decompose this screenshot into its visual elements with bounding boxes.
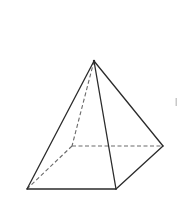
apex-vertex [93, 60, 95, 62]
square-pyramid-figure [0, 0, 177, 208]
edge-apex-front-right [94, 61, 116, 189]
edge-back-left-front-left [27, 146, 72, 189]
hidden-edges [27, 61, 163, 189]
edge-front-right-back-right [116, 146, 163, 189]
edge-apex-back-left [72, 61, 94, 146]
edge-apex-back-right [94, 61, 163, 146]
diagram-canvas [0, 0, 177, 208]
edge-apex-front-left [27, 61, 94, 189]
edge-artifact-mark [176, 98, 178, 106]
